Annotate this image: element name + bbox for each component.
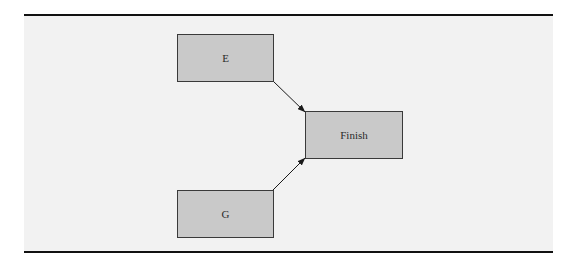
node-finish-label: Finish [340,129,368,141]
node-g: G [177,190,274,238]
node-e: E [177,34,274,82]
bottom-rule [24,251,553,253]
diagram-panel [24,16,553,251]
node-g-label: G [222,208,230,220]
top-rule [24,14,553,16]
node-e-label: E [222,52,229,64]
node-finish: Finish [305,111,403,159]
